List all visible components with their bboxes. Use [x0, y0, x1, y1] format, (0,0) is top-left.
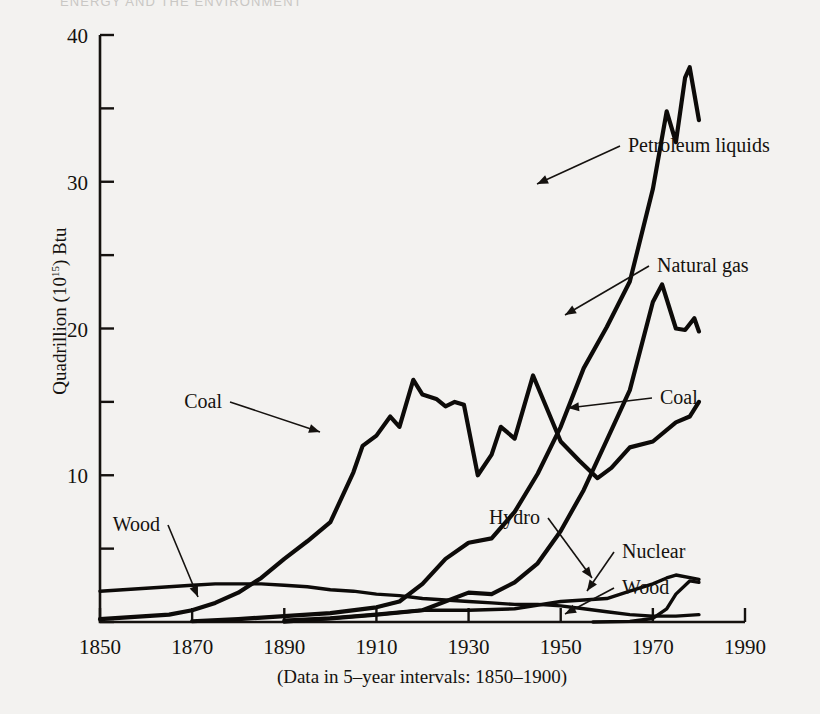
annotation-label-coal-left: Coal	[184, 390, 222, 412]
annotation-label-hydro: Hydro	[489, 506, 540, 529]
x-axis-tick-labels: 18501870189019101930195019701990	[79, 635, 766, 659]
chart-caption: (Data in 5–year intervals: 1850–1900)	[277, 666, 567, 688]
annotation-arrow-hydro	[582, 566, 592, 578]
x-tick-label: 1850	[79, 635, 121, 659]
annotation-leader-coal-right	[568, 398, 652, 408]
annotation-label-wood-right: Wood	[622, 576, 669, 598]
annotation-leader-coal-left	[230, 402, 320, 432]
figure-page: ENERGY AND THE ENVIRONMENT Quadrillion (…	[0, 0, 820, 714]
x-tick-label: 1970	[632, 635, 674, 659]
annotation-leader-petroleum-liquids	[537, 146, 620, 184]
x-tick-label: 1870	[171, 635, 213, 659]
annotation-label-nuclear: Nuclear	[622, 540, 686, 562]
annotation-group: Petroleum liquidsNatural gasCoalCoalWood…	[113, 134, 770, 614]
annotation-arrow-natural-gas	[565, 306, 577, 315]
annotation-arrow-coal-left	[308, 424, 320, 433]
y-axis-tick-labels: 10203040	[67, 24, 88, 488]
annotation-label-natural-gas: Natural gas	[657, 254, 749, 277]
y-tick-label: 30	[67, 171, 88, 195]
chart-figure: Quadrillion (1015) Btu 10203040 18501870…	[0, 0, 820, 714]
y-tick-label: 20	[67, 318, 88, 342]
x-tick-label: 1930	[448, 635, 490, 659]
annotation-leader-natural-gas	[565, 266, 649, 315]
x-tick-label: 1950	[540, 635, 582, 659]
x-tick-label: 1890	[263, 635, 305, 659]
annotation-arrow-nuclear	[587, 579, 597, 591]
annotation-arrow-petroleum-liquids	[537, 175, 549, 184]
axis-lines	[100, 35, 745, 622]
annotation-label-petroleum-liquids: Petroleum liquids	[628, 134, 770, 157]
y-tick-label: 40	[67, 24, 88, 48]
y-tick-label: 10	[67, 464, 88, 488]
annotation-leader-hydro	[548, 518, 592, 578]
x-tick-label: 1990	[724, 635, 766, 659]
annotation-label-coal-right: Coal	[660, 386, 698, 408]
chart-svg: 10203040 1850187018901910193019501970199…	[0, 0, 820, 714]
series-petroleum-liquids	[192, 67, 699, 621]
x-tick-label: 1910	[355, 635, 397, 659]
annotation-label-wood-left: Wood	[113, 513, 160, 535]
series-coal	[100, 375, 699, 619]
